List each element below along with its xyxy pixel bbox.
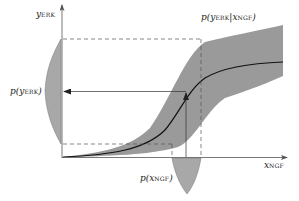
uncertainty-band	[63, 25, 283, 157]
marginal-x-label: p(xNGF)	[140, 174, 173, 183]
diagram-canvas	[0, 0, 299, 201]
x-axis-label: xNGF	[264, 161, 284, 170]
y-axis-label: yERK	[36, 10, 55, 19]
p-y-erk-distribution	[45, 39, 61, 144]
conditional-distribution-label: p(yERK|xNGF)	[201, 13, 256, 22]
p-x-ngf-distribution	[172, 158, 201, 194]
marginal-y-label: p(yERK)	[10, 87, 42, 96]
